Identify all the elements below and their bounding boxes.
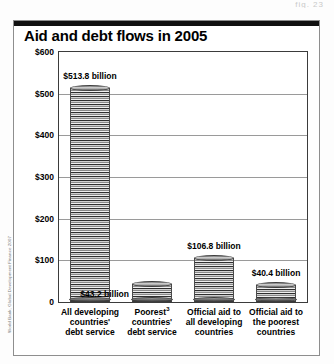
bar: $40.4 billion xyxy=(256,285,296,302)
footnote-marker: 3 xyxy=(166,306,169,312)
bar: $43.2 billion xyxy=(132,284,172,302)
y-axis-tick-label: $500 xyxy=(35,89,54,99)
bar-value-label: $106.8 billion xyxy=(187,241,240,251)
y-axis-tick-label: $200 xyxy=(35,214,54,224)
page-header-scrap: fig. 23 xyxy=(295,0,324,8)
source-credit: World Bank, Global Development Finance 2… xyxy=(7,236,12,333)
bar: $106.8 billion xyxy=(194,258,234,303)
bar-value-label: $513.8 billion xyxy=(63,71,116,81)
bar-value-label: $40.4 billion xyxy=(252,268,301,278)
category-label-line: countries xyxy=(239,327,313,337)
category-label-line: Official aid to xyxy=(239,307,313,317)
bar-value-label: $43.2 billion xyxy=(80,289,129,299)
plot-area: $600$500$400$300$200$1000$513.8 billionA… xyxy=(58,51,308,303)
category-label-line: the poorest xyxy=(239,317,313,327)
title-divider-rule xyxy=(14,21,319,26)
chart-title: Aid and debt flows in 2005 xyxy=(24,27,207,44)
y-axis-tick-label: $300 xyxy=(35,172,54,182)
x-axis-category-label: Official aid tothe poorestcountries xyxy=(239,307,313,337)
y-axis-tick-label: 0 xyxy=(49,297,54,307)
y-axis-tick-label: $100 xyxy=(35,255,54,265)
bar: $513.8 billion xyxy=(70,88,110,302)
y-axis-tick-label: $600 xyxy=(35,47,54,57)
figure-container: Aid and debt flows in 2005 $600$500$400$… xyxy=(13,20,320,356)
y-axis-tick-label: $400 xyxy=(35,130,54,140)
scanned-page: fig. 23 Aid and debt flows in 2005 $600$… xyxy=(0,0,334,364)
